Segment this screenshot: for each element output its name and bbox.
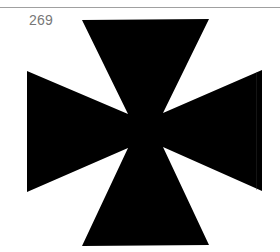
cross-shape — [27, 19, 262, 246]
cross-pattee-icon — [0, 0, 280, 252]
scan-artifact-line — [256, 72, 257, 190]
document-page: 269 — [0, 0, 280, 252]
